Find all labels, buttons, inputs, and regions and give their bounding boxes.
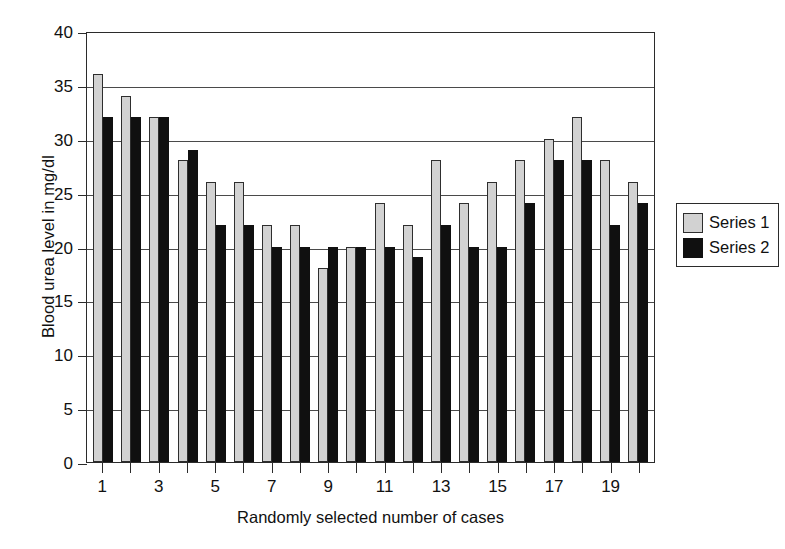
x-tick-mark [328, 463, 329, 473]
legend-label-series-2: Series 2 [709, 238, 770, 257]
bar-series-container [87, 33, 654, 462]
bar-series-2 [328, 247, 338, 463]
x-tick-label-cell [625, 477, 653, 503]
x-tick [512, 463, 540, 475]
bar-series-1 [206, 182, 216, 462]
bar-group [89, 33, 117, 462]
x-tick-mark [498, 463, 499, 473]
x-tick-label: 15 [488, 477, 507, 497]
y-tick-mark [78, 33, 87, 34]
x-tick-mark [356, 463, 357, 473]
legend-swatch-series-2-icon [683, 238, 703, 258]
bar-series-2 [385, 247, 395, 463]
x-tick-mark [554, 463, 555, 473]
bar-series-1 [318, 268, 328, 462]
x-tick-label-cell: 11 [371, 477, 399, 503]
bar-series-2 [300, 247, 310, 463]
bar-chart: Blood urea level in mg/dl 05101520253035… [0, 0, 785, 549]
bar-series-2 [216, 225, 226, 462]
bar-series-2 [554, 160, 564, 462]
x-tick [342, 463, 370, 475]
x-tick-mark [441, 463, 442, 473]
x-tick [229, 463, 257, 475]
bar-group [173, 33, 201, 462]
bar-series-2 [244, 225, 254, 462]
x-tick-mark [243, 463, 244, 473]
y-tick-label: 15 [54, 290, 73, 314]
y-tick-label: 20 [54, 237, 73, 261]
bar-group [624, 33, 652, 462]
bar-series-2 [441, 225, 451, 462]
y-tick-label: 40 [54, 21, 73, 45]
x-tick-label: 1 [97, 477, 106, 497]
bar-group [483, 33, 511, 462]
bar-series-1 [403, 225, 413, 462]
x-tick [399, 463, 427, 475]
bar-group [427, 33, 455, 462]
x-tick-mark [187, 463, 188, 473]
x-axis-tick-labels: 135791113151719 [86, 477, 655, 503]
y-tick-label: 10 [54, 344, 73, 368]
legend-swatch-series-1-icon [683, 213, 703, 233]
bar-series-2 [159, 117, 169, 462]
bar-series-1 [346, 247, 356, 463]
x-tick [201, 463, 229, 475]
bar-series-2 [413, 257, 423, 462]
bar-series-1 [375, 203, 385, 462]
x-tick-label: 3 [154, 477, 163, 497]
x-tick [173, 463, 201, 475]
x-tick [427, 463, 455, 475]
bar-series-1 [459, 203, 469, 462]
x-tick-label-cell [342, 477, 370, 503]
bar-series-2 [131, 117, 141, 462]
bar-series-2 [638, 203, 648, 462]
x-tick-label-cell: 15 [484, 477, 512, 503]
bar-group [371, 33, 399, 462]
x-tick-label-cell: 7 [258, 477, 286, 503]
bar-group [117, 33, 145, 462]
x-tick-label-cell [173, 477, 201, 503]
bar-series-1 [572, 117, 582, 462]
x-tick [371, 463, 399, 475]
x-tick-label: 7 [267, 477, 276, 497]
y-tick-label: 25 [54, 183, 73, 207]
y-tick-mark [78, 302, 87, 303]
x-tick [597, 463, 625, 475]
y-tick-mark [78, 249, 87, 250]
x-tick [145, 463, 173, 475]
x-tick-label: 17 [545, 477, 564, 497]
x-tick-mark [159, 463, 160, 473]
bar-series-2 [497, 247, 507, 463]
x-tick-label-cell: 1 [88, 477, 116, 503]
x-tick-mark [582, 463, 583, 473]
x-tick-mark [272, 463, 273, 473]
x-tick-mark [639, 463, 640, 473]
x-tick [286, 463, 314, 475]
x-tick-mark [102, 463, 103, 473]
x-tick-label-cell [399, 477, 427, 503]
x-tick-label: 11 [376, 477, 394, 497]
bar-group [540, 33, 568, 462]
y-tick-mark [78, 410, 87, 411]
bar-series-1 [290, 225, 300, 462]
bar-series-1 [544, 139, 554, 462]
x-tick [568, 463, 596, 475]
legend-item-series-1: Series 1 [683, 210, 770, 235]
y-tick-label: 35 [54, 75, 73, 99]
bar-group [230, 33, 258, 462]
bar-series-1 [178, 160, 188, 462]
bar-series-1 [600, 160, 610, 462]
bar-series-1 [487, 182, 497, 462]
bar-series-2 [272, 247, 282, 463]
x-tick [455, 463, 483, 475]
bar-series-2 [103, 117, 113, 462]
bar-group [286, 33, 314, 462]
bar-series-1 [93, 74, 103, 462]
x-tick-mark [526, 463, 527, 473]
x-tick [314, 463, 342, 475]
legend-item-series-2: Series 2 [683, 235, 770, 260]
y-tick-label: 30 [54, 129, 73, 153]
x-tick-label: 5 [210, 477, 219, 497]
bar-group [342, 33, 370, 462]
x-tick [88, 463, 116, 475]
